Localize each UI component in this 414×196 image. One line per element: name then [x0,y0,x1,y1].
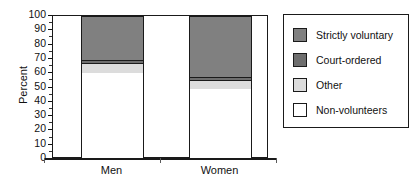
y-axis-tick-label: 40 [34,94,46,107]
y-axis-tick-label: 80 [34,37,46,50]
bar-segment-other[interactable] [82,63,143,73]
x-axis-tick-mark [276,158,277,163]
bar-segment-other[interactable] [190,80,251,89]
legend-swatch-icon [293,103,307,117]
x-axis-label-men: Men [72,164,152,176]
chart-legend: Strictly voluntaryCourt-orderedOtherNon-… [283,14,409,128]
y-axis-tick-label: 60 [34,65,46,78]
chart-figure: Percent 1009080706050403020100 MenWomen … [0,0,414,196]
legend-item[interactable]: Other [293,74,342,96]
plot-area [52,15,268,158]
legend-swatch-icon [293,78,307,92]
bar-segment-non-volunteers[interactable] [190,89,251,159]
legend-item[interactable]: Strictly voluntary [293,24,393,46]
bar-women[interactable] [189,16,252,157]
x-axis-label-women: Women [180,164,260,176]
legend-item-label: Strictly voluntary [316,29,393,41]
x-axis-tick-mark [44,158,45,163]
y-axis-tick-label: 20 [34,122,46,135]
bar-segment-non-volunteers[interactable] [82,73,143,159]
legend-item-label: Court-ordered [316,54,381,66]
y-axis-tick-label: 30 [34,108,46,121]
y-axis-tick-label: 50 [34,80,46,93]
bar-segment-court-ordered[interactable] [190,77,251,80]
bar-men[interactable] [81,16,144,157]
legend-item-label: Non-volunteers [316,104,387,116]
x-axis-tick-mark [160,158,161,163]
legend-item[interactable]: Non-volunteers [293,99,387,121]
y-axis-tick-label: 70 [34,51,46,64]
bar-segment-court-ordered[interactable] [82,60,143,63]
bar-segment-strictly-voluntary[interactable] [82,16,143,60]
y-axis-tick-label: 100 [28,8,46,21]
legend-swatch-icon [293,28,307,42]
y-axis-ticks: 1009080706050403020100 [22,15,52,158]
legend-swatch-icon [293,53,307,67]
y-axis-tick-label: 90 [34,22,46,35]
y-axis-tick-label: 10 [34,137,46,150]
legend-item-label: Other [316,79,342,91]
legend-item[interactable]: Court-ordered [293,49,381,71]
bar-segment-strictly-voluntary[interactable] [190,16,251,77]
